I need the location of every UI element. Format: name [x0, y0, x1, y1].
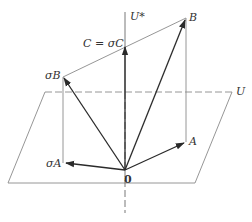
label-sigma-a: σA [46, 157, 62, 170]
label-u: U [236, 85, 246, 98]
vector-0-sigmaa [66, 163, 125, 170]
label-a: A [188, 135, 197, 148]
label-b: B [188, 11, 197, 24]
vector-reflection-diagram: U* B C = σC σB U A 0 σA [0, 0, 252, 222]
label-sigma-b: σB [45, 69, 61, 82]
label-c-eq-sigma-c: C = σC [83, 37, 124, 50]
label-origin: 0 [124, 173, 132, 186]
label-u-star: U* [130, 10, 145, 23]
